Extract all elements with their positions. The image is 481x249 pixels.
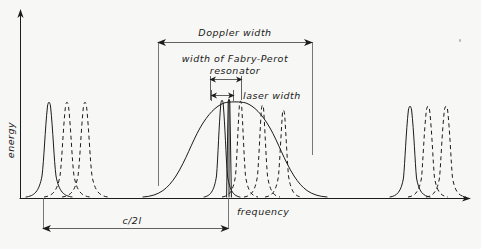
mode-spacing-label: c/2l bbox=[122, 215, 141, 226]
y-axis-label: energy bbox=[5, 122, 16, 158]
figure-canvas: energy frequency bbox=[0, 0, 481, 249]
right-mode-group bbox=[390, 106, 466, 197]
laser-width-label: laser width bbox=[243, 90, 301, 101]
left-peak-dashed-2 bbox=[62, 102, 108, 197]
left-peak-dashed-1 bbox=[44, 102, 90, 197]
left-mode-group bbox=[26, 102, 108, 197]
doppler-width-label: Doppler width bbox=[198, 27, 271, 38]
center-peak-dashed-3 bbox=[265, 110, 301, 197]
laser-width-annotation: laser width bbox=[211, 90, 301, 101]
doppler-envelope-curve bbox=[143, 102, 327, 197]
central-mode-group bbox=[204, 100, 301, 198]
fabry-perot-label-line1: width of Fabry-Perot bbox=[182, 53, 289, 64]
x-axis-label: frequency bbox=[237, 206, 289, 217]
right-peak-dashed-1 bbox=[408, 106, 448, 197]
laser-gain-diagram: energy frequency bbox=[0, 0, 481, 249]
center-peak-dashed-2 bbox=[244, 105, 280, 197]
left-peak-solid bbox=[26, 102, 72, 197]
mode-spacing-annotation: c/2l bbox=[42, 198, 230, 232]
right-peak-dashed-2 bbox=[426, 106, 466, 197]
doppler-width-annotation: Doppler width bbox=[157, 27, 313, 186]
right-peak-solid bbox=[390, 106, 430, 197]
fabry-perot-label-line2: resonator bbox=[210, 65, 261, 76]
